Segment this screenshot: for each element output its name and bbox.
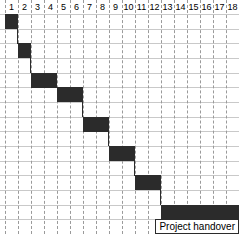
grid-column-separator <box>135 0 136 234</box>
gantt-bar-task-7[interactable] <box>135 175 161 190</box>
gantt-dependency-link <box>30 58 31 73</box>
gantt-bar-task-5[interactable] <box>83 117 109 132</box>
grid-column-separator <box>57 0 58 234</box>
grid-row-line <box>0 175 239 176</box>
column-header-15: 15 <box>187 0 200 14</box>
grid-row-line <box>0 117 239 118</box>
grid-row-line <box>0 161 239 162</box>
column-header-4: 4 <box>44 0 57 14</box>
gantt-dependency-link <box>134 161 135 176</box>
gantt-bar-task-6[interactable] <box>109 146 135 161</box>
column-header-9: 9 <box>109 0 122 14</box>
grid-column-separator <box>122 0 123 234</box>
column-header-5: 5 <box>57 0 70 14</box>
grid-column-separator <box>226 0 227 234</box>
gantt-dependency-link <box>108 131 109 146</box>
grid-row-line <box>0 131 239 132</box>
gantt-chart: 123456789101112131415161718 Project hand… <box>0 0 239 234</box>
grid-column-separator <box>213 0 214 234</box>
gantt-dependency-link <box>82 102 83 117</box>
gantt-bar-task-8[interactable] <box>161 205 239 220</box>
grid-row-line <box>0 43 239 44</box>
grid-row-line <box>0 102 239 103</box>
column-header-10: 10 <box>122 0 135 14</box>
column-header-7: 7 <box>83 0 96 14</box>
column-header-row: 123456789101112131415161718 <box>0 0 239 14</box>
column-header-12: 12 <box>148 0 161 14</box>
gantt-dependency-link <box>160 190 161 205</box>
gantt-bar-task-3[interactable] <box>31 73 57 88</box>
grid-column-separator <box>187 0 188 234</box>
gantt-bar-task-2[interactable] <box>18 43 31 58</box>
grid-column-separator <box>31 0 32 234</box>
grid-row-line <box>0 190 239 191</box>
grid-row-line <box>0 29 239 30</box>
column-header-3: 3 <box>31 0 44 14</box>
grid-column-separator <box>70 0 71 234</box>
grid-column-separator <box>174 0 175 234</box>
gantt-bar-task-4[interactable] <box>57 87 83 102</box>
grid-column-separator <box>200 0 201 234</box>
gantt-bar-task-1[interactable] <box>5 14 18 29</box>
column-header-13: 13 <box>161 0 174 14</box>
grid-row-line <box>0 58 239 59</box>
column-header-14: 14 <box>174 0 187 14</box>
grid-column-separator <box>109 0 110 234</box>
column-header-2: 2 <box>18 0 31 14</box>
grid-column-separator <box>148 0 149 234</box>
column-header-17: 17 <box>213 0 226 14</box>
gantt-plot-area: Project handover <box>0 14 239 234</box>
milestone-label: Project handover <box>155 219 239 234</box>
column-header-1: 1 <box>5 0 18 14</box>
grid-row-line <box>0 14 239 15</box>
column-header-6: 6 <box>70 0 83 14</box>
column-header-16: 16 <box>200 0 213 14</box>
grid-column-separator <box>5 0 6 234</box>
column-header-8: 8 <box>96 0 109 14</box>
grid-column-separator <box>18 0 19 234</box>
grid-column-separator <box>44 0 45 234</box>
column-header-11: 11 <box>135 0 148 14</box>
grid-column-separator <box>161 0 162 234</box>
gantt-dependency-link <box>17 29 18 44</box>
column-header-18: 18 <box>226 0 239 14</box>
